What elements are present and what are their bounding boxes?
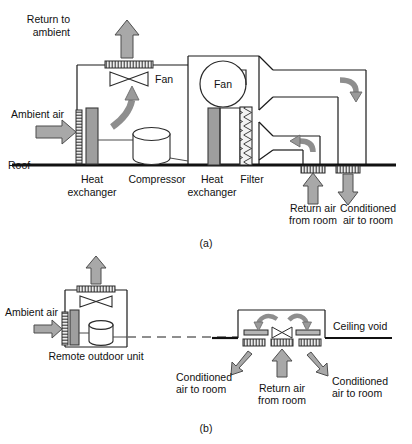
label-compressor-a: Compressor bbox=[128, 173, 186, 185]
hvac-schematic-figure: Return to ambient Fan Fan Ambient air Ro… bbox=[0, 0, 412, 444]
caption-panel-b: (b) bbox=[200, 422, 213, 434]
indoor-coil-left-b bbox=[244, 330, 268, 335]
filter-a bbox=[240, 107, 252, 165]
label-return-air-b-line1: Return air bbox=[259, 382, 306, 394]
compressor-a bbox=[133, 128, 170, 165]
caption-panel-a: (a) bbox=[200, 237, 213, 249]
label-heat-exchanger-left-line1: Heat bbox=[81, 173, 103, 185]
outdoor-heat-exchanger-b bbox=[70, 310, 79, 345]
label-ambient-air-b: Ambient air bbox=[5, 306, 59, 318]
label-return-air-b-line2: from room bbox=[258, 394, 306, 406]
label-return-air-a-line1: Return air bbox=[290, 202, 337, 214]
label-conditioned-right-b-line1: Conditioned bbox=[332, 375, 388, 387]
label-return-air-a-line2: from room bbox=[289, 214, 337, 226]
label-conditioned-left-b-line1: Conditioned bbox=[176, 371, 232, 383]
ambient-air-inlet-grille bbox=[76, 110, 82, 164]
label-ambient-air-a: Ambient air bbox=[11, 108, 65, 120]
return-to-ambient-grille bbox=[105, 61, 153, 68]
outdoor-coil-grille-b bbox=[62, 312, 68, 345]
outdoor-discharge-grille-b bbox=[77, 286, 115, 292]
label-remote-outdoor-unit-b: Remote outdoor unit bbox=[48, 350, 143, 362]
label-roof: Roof bbox=[8, 159, 30, 171]
label-heat-exchanger-right-line1: Heat bbox=[201, 173, 223, 185]
conditioned-air-grille-a bbox=[336, 166, 360, 173]
label-conditioned-air-a-line1: Conditioned bbox=[340, 202, 396, 214]
figure-canvas: Return to ambient Fan Fan Ambient air Ro… bbox=[0, 0, 412, 444]
heat-exchanger-right bbox=[208, 108, 220, 165]
label-filter-a: Filter bbox=[240, 173, 264, 185]
supply-grille-right-b bbox=[299, 339, 321, 346]
return-grille-center-b bbox=[271, 339, 293, 346]
label-ceiling-void-b: Ceiling void bbox=[333, 320, 387, 332]
supply-grille-left-b bbox=[243, 339, 265, 346]
label-heat-exchanger-left-line2: exchanger bbox=[67, 186, 117, 198]
indoor-coil-right-b bbox=[296, 330, 320, 335]
return-air-grille-a bbox=[301, 166, 325, 173]
heat-exchanger-left bbox=[86, 108, 98, 164]
label-heat-exchanger-right-line2: exchanger bbox=[187, 186, 237, 198]
label-return-to-ambient-line2: ambient bbox=[33, 26, 70, 38]
label-fan-circle-a: Fan bbox=[214, 78, 232, 90]
compressor-b bbox=[89, 321, 113, 346]
label-return-to-ambient-line1: Return to bbox=[27, 13, 70, 25]
label-conditioned-left-b-line2: air to room bbox=[176, 383, 226, 395]
label-conditioned-air-a-line2: air to room bbox=[343, 214, 393, 226]
label-conditioned-right-b-line2: air to room bbox=[332, 387, 382, 399]
label-fan-damper-a: Fan bbox=[155, 73, 173, 85]
